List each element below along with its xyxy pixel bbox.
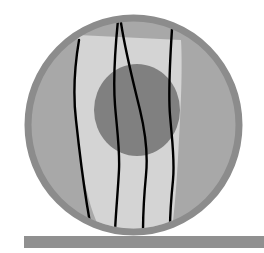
support-bar: [24, 236, 264, 248]
figure-root: Cross-section schematic of layered disc …: [0, 0, 264, 253]
inner-core: [94, 64, 180, 156]
schematic-diagram: Cross-section schematic of layered disc …: [0, 0, 264, 253]
